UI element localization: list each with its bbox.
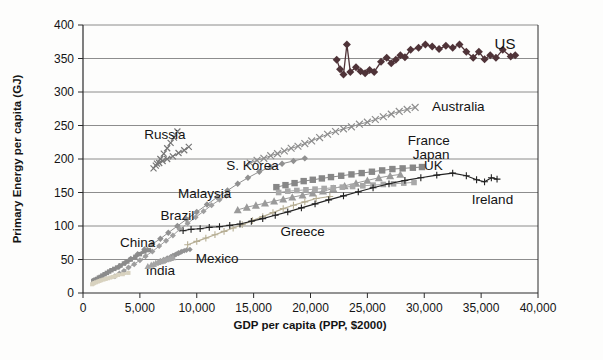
data-point-x [396,108,403,115]
data-point-plus [248,218,255,225]
data-point-square [129,257,133,261]
country-label-brazil: Brazil [161,208,195,223]
country-label-mexico: Mexico [196,251,239,266]
data-point-square [321,186,327,192]
data-point-square [350,184,356,190]
data-point-x [274,150,281,157]
data-point-plus [417,174,424,181]
x-tick-label-25000: 25,000 [349,301,386,315]
country-label-china: China [120,235,156,250]
data-point-diamond [245,175,251,181]
y-tick-label-300: 300 [54,85,74,99]
y-tick-label-350: 350 [54,52,74,66]
energy-vs-gdp-scatter-chart: 05010015020025030035040005,00010,00015,0… [0,0,603,360]
data-point-square [303,187,309,193]
data-point-triangle [234,206,242,213]
data-point-plus [481,178,488,185]
chart-page: 05010015020025030035040005,00010,00015,0… [0,0,603,360]
data-point-square [411,180,417,186]
country-label-greece: Greece [280,224,324,239]
data-point-diamond [442,42,450,50]
data-point-square [330,185,336,191]
data-point-square [389,166,395,172]
data-point-square [291,180,297,186]
y-tick-label-400: 400 [54,18,74,32]
y-tick-label-250: 250 [54,119,74,133]
data-point-plus [188,226,195,233]
y-tick-label-150: 150 [54,186,74,200]
x-tick-label-15000: 15,000 [235,301,272,315]
y-tick-label-50: 50 [61,253,75,267]
data-point-square [369,169,375,175]
data-point-x [164,145,170,151]
series-line-us [337,44,516,74]
data-point-diamond [343,40,351,48]
data-point-x [356,121,363,128]
data-point-square [360,183,366,189]
data-point-square [273,184,279,190]
data-point-triangle [396,171,404,178]
data-point-square [338,173,344,179]
data-point-square [121,272,125,276]
data-point-x [170,153,176,159]
data-point-diamond [131,261,137,267]
data-point-plus [212,231,219,238]
country-label-malaysia: Malaysia [178,186,232,201]
data-point-x [161,151,167,157]
data-point-diamond [435,45,443,53]
country-label-us: US [495,35,516,52]
country-label-ireland: Ireland [472,192,513,207]
y-tick-label-200: 200 [54,152,74,166]
data-point-x [301,140,308,147]
data-point-plus [463,172,470,179]
data-point-square [276,190,282,196]
x-tick-label-5000: 5,000 [125,301,155,315]
data-point-x [340,125,347,132]
data-point-plus [301,198,308,205]
data-point-x [316,134,323,141]
data-point-diamond [279,160,285,166]
data-point-x [186,144,192,150]
x-tick-label-20000: 20,000 [292,301,329,315]
data-point-square [358,170,364,176]
data-point-square [294,188,300,194]
data-point-square [133,255,137,259]
data-point-square [138,252,142,256]
data-point-square [300,178,306,184]
data-point-plus [494,176,501,183]
country-label-s-korea: S. Korea [226,158,279,173]
data-point-plus [280,205,287,212]
data-point-x [380,113,387,120]
data-point-plus [473,176,480,183]
data-point-x [404,106,411,113]
data-point-square [142,249,146,253]
data-point-x [281,148,288,155]
data-point-square [328,174,334,180]
data-point-x [372,116,379,123]
data-point-square [116,273,120,277]
data-point-square [312,186,318,192]
y-axis-title: Primary Energy per capita (GJ) [11,74,23,243]
x-tick-label-30000: 30,000 [406,301,443,315]
data-point-diamond [449,44,457,52]
data-point-x [348,123,355,130]
data-point-plus [488,174,495,181]
data-point-x [412,104,419,111]
x-tick-label-10000: 10,000 [178,301,215,315]
data-point-square [348,171,354,177]
x-axis-title: GDP per capita (PPP, $2000) [234,319,387,331]
data-point-plus [290,202,297,209]
data-point-square [410,165,416,171]
data-point-plus [284,209,291,216]
data-point-square [285,188,291,194]
plot-area: 05010015020025030035040005,00010,00015,0… [54,18,557,315]
data-point-diamond [428,42,436,50]
data-point-diamond [235,181,241,187]
x-tick-label-40000: 40,000 [520,301,557,315]
x-tick-label-35000: 35,000 [463,301,500,315]
data-point-x [308,138,315,145]
data-point-plus [193,238,200,245]
data-point-square [379,167,385,173]
data-point-diamond [415,44,423,52]
data-point-diamond [421,40,429,48]
